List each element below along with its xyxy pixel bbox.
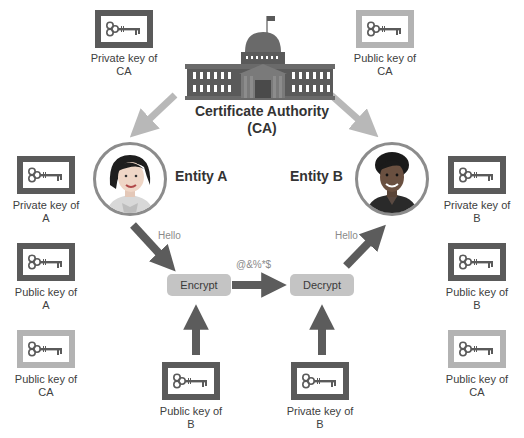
key-icon xyxy=(365,20,405,38)
private-key-a-card xyxy=(17,156,75,194)
key-icon xyxy=(26,340,66,358)
public-key-a-label: Public key of A xyxy=(0,286,96,312)
ca-label-line2: (CA) xyxy=(182,120,342,137)
government-building-icon xyxy=(185,12,335,102)
key-icon xyxy=(171,372,211,390)
plaintext-message-a: Hello xyxy=(158,230,181,241)
private-key-b-label: Private key of B xyxy=(427,199,524,225)
encrypt-step: Encrypt xyxy=(167,274,231,296)
key-icon xyxy=(26,253,66,271)
private-key-b-card-bottom xyxy=(291,362,349,400)
private-key-b-label-bottom: Private key of B xyxy=(270,405,370,431)
woman-avatar-icon xyxy=(358,145,426,213)
public-key-b-label-bottom: Public key of B xyxy=(141,405,241,431)
key-icon xyxy=(457,253,497,271)
entity-b-label: Entity B xyxy=(290,168,343,184)
certificate-authority xyxy=(185,12,335,102)
ciphertext-message: @&%*$ xyxy=(236,259,271,270)
ca-label: Certificate Authority (CA) xyxy=(182,103,342,137)
ca-label-line1: Certificate Authority xyxy=(182,103,342,120)
key-icon xyxy=(457,340,497,358)
public-key-b-label-right: Public key of B xyxy=(427,286,524,312)
public-key-ca-label-top: Public key of CA xyxy=(335,52,435,78)
key-icon xyxy=(104,20,144,38)
private-key-ca-label: Private key of CA xyxy=(74,52,174,78)
ca-to-entity-a-arrow xyxy=(140,95,175,128)
private-key-b-card xyxy=(448,156,506,194)
decrypt-step: Decrypt xyxy=(290,274,354,296)
key-icon xyxy=(26,166,66,184)
key-icon xyxy=(457,166,497,184)
key-icon xyxy=(300,372,340,390)
private-key-a-label: Private key of A xyxy=(0,199,96,225)
public-key-a-card xyxy=(17,243,75,281)
private-key-ca-card xyxy=(95,10,153,48)
woman-avatar-icon xyxy=(96,145,164,213)
public-key-ca-card-top xyxy=(356,10,414,48)
entity-b-avatar xyxy=(355,142,429,216)
entity-a-avatar xyxy=(93,142,167,216)
public-key-ca-label-left: Public key of CA xyxy=(0,373,96,399)
public-key-ca-card-left xyxy=(17,330,75,368)
plaintext-message-b: Hello xyxy=(335,230,358,241)
public-key-ca-card-right xyxy=(448,330,506,368)
public-key-b-card-right xyxy=(448,243,506,281)
public-key-b-card-bottom xyxy=(162,362,220,400)
public-key-ca-label-right: Public key of CA xyxy=(427,373,524,399)
entity-a-label: Entity A xyxy=(175,168,227,184)
